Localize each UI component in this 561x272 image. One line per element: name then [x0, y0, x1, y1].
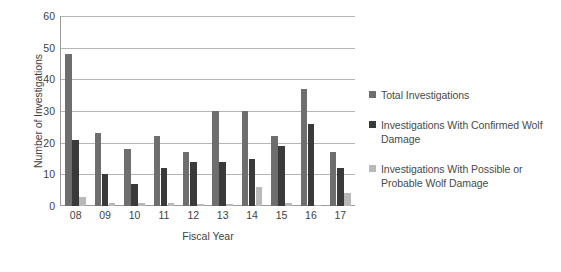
bar-total-09 [95, 133, 102, 206]
bars-layer [61, 16, 355, 206]
legend-swatch-possible [369, 165, 376, 172]
bar-group-13 [212, 16, 233, 206]
bar-group-09 [95, 16, 116, 206]
bar-group-17 [330, 16, 351, 206]
bar-possible-17 [344, 193, 351, 206]
x-axis-tick-label: 12 [187, 209, 199, 221]
x-axis-tick-label: 09 [99, 209, 111, 221]
legend-swatch-total [369, 91, 376, 98]
bar-group-14 [242, 16, 263, 206]
x-axis-tick-label: 16 [305, 209, 317, 221]
x-axis-tick-label: 08 [70, 209, 82, 221]
y-axis-tick-label: 20 [31, 137, 55, 148]
bar-total-12 [183, 152, 190, 206]
legend-label: Investigations With Confirmed Wolf Damag… [381, 118, 555, 146]
bar-total-14 [242, 111, 249, 206]
legend-entry-0[interactable]: Total Investigations [369, 88, 555, 102]
bar-group-15 [271, 16, 292, 206]
bar-possible-15 [285, 203, 292, 206]
y-axis-tick-label: 60 [31, 11, 55, 22]
bar-confirmed-10 [131, 184, 138, 206]
bar-confirmed-12 [190, 162, 197, 206]
y-axis-tick-label: 30 [31, 106, 55, 117]
bar-group-10 [124, 16, 145, 206]
plot-area [60, 16, 355, 206]
bar-possible-11 [168, 203, 175, 206]
bar-possible-12 [197, 204, 204, 206]
y-axis-tick-label: 40 [31, 74, 55, 85]
x-axis-tick-label: 14 [246, 209, 258, 221]
bar-total-13 [212, 111, 219, 206]
bar-confirmed-09 [102, 174, 109, 206]
bar-total-11 [154, 136, 161, 206]
x-axis-tick-label: 17 [334, 209, 346, 221]
chart-legend: Total InvestigationsInvestigations With … [369, 88, 555, 206]
bar-total-17 [330, 152, 337, 206]
bar-confirmed-15 [278, 146, 285, 206]
bar-group-12 [183, 16, 204, 206]
legend-entry-2[interactable]: Investigations With Possible or Probable… [369, 162, 555, 190]
bar-possible-13 [226, 204, 233, 206]
bar-chart-figure: Number of Investigations 0102030405060 0… [0, 0, 561, 272]
legend-swatch-confirmed [369, 121, 376, 128]
x-axis-tick-label: 11 [158, 209, 169, 221]
bar-possible-09 [109, 203, 116, 206]
bar-group-08 [65, 16, 86, 206]
bar-possible-10 [138, 203, 145, 206]
y-axis-tick-label: 50 [31, 42, 55, 53]
bar-possible-08 [79, 197, 86, 207]
x-axis-title: Fiscal Year [61, 230, 355, 242]
bar-total-16 [301, 89, 308, 206]
x-axis-tick-label: 10 [129, 209, 141, 221]
y-axis-tick-labels: 0102030405060 [31, 16, 55, 206]
y-axis-tick-label: 0 [31, 201, 55, 212]
bar-confirmed-11 [161, 168, 168, 206]
y-axis-tick-label: 10 [31, 169, 55, 180]
bar-group-11 [154, 16, 175, 206]
bar-confirmed-14 [249, 159, 256, 207]
bar-confirmed-17 [337, 168, 344, 206]
legend-label: Total Investigations [381, 88, 469, 102]
bar-group-16 [301, 16, 322, 206]
legend-entry-1[interactable]: Investigations With Confirmed Wolf Damag… [369, 118, 555, 146]
bar-total-08 [65, 54, 72, 206]
x-axis-tick-labels: 08091011121314151617 [61, 209, 355, 225]
x-axis-tick-label: 13 [217, 209, 229, 221]
bar-possible-14 [256, 187, 263, 206]
x-axis-tick-label: 15 [276, 209, 288, 221]
bar-confirmed-16 [308, 124, 315, 206]
bar-confirmed-13 [219, 162, 226, 206]
bar-possible-16 [315, 205, 322, 206]
bar-total-15 [271, 136, 278, 206]
bar-total-10 [124, 149, 131, 206]
legend-label: Investigations With Possible or Probable… [381, 162, 555, 190]
bar-confirmed-08 [72, 140, 79, 207]
